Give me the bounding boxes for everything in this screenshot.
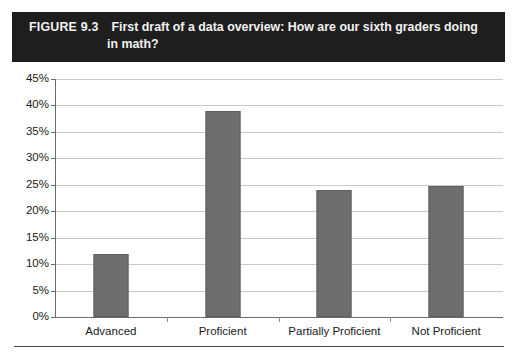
bar-slot [390,79,502,317]
figure-banner-line-1: FIGURE 9.3First draft of a data overview… [29,19,495,36]
bar[interactable] [317,190,352,317]
x-axis-category-label: Not Proficient [390,324,502,338]
y-axis-tick-label: 30% [5,152,49,164]
bar-slot [55,79,167,317]
figure-number-label: FIGURE 9.3 [29,20,98,34]
y-axis-tick-label: 10% [5,258,49,270]
y-axis-tick-label: 5% [5,285,49,297]
bar-chart: 0%5%10%15%20%25%30%35%40%45% AdvancedPro… [0,62,516,346]
x-axis-tick-marks [55,317,502,322]
x-axis-category-label: Proficient [167,324,279,338]
x-axis-tick-mark [167,317,168,322]
y-axis-tick-label: 0% [5,311,49,323]
y-axis-tick-label: 35% [5,126,49,138]
bar[interactable] [93,254,128,317]
y-axis-tick-label: 20% [5,205,49,217]
y-axis-tick-label: 45% [5,73,49,85]
figure-banner-line-2: in math? [29,36,495,53]
bar-series [55,79,502,317]
figure-banner: FIGURE 9.3First draft of a data overview… [12,12,505,62]
x-axis-category-label: Partially Proficient [279,324,391,338]
bar[interactable] [429,186,464,317]
x-axis-category-label: Advanced [55,324,167,338]
bottom-divider [14,346,504,347]
x-axis-labels: AdvancedProficientPartially ProficientNo… [55,324,502,344]
y-axis-tick-label: 25% [5,179,49,191]
x-axis-tick-mark [279,317,280,322]
bar[interactable] [205,111,240,317]
figure-title-line-2: in math? [107,36,495,53]
bar-slot [279,79,391,317]
bar-slot [167,79,279,317]
y-axis-tick-label: 40% [5,99,49,111]
figure-title-line-1: First draft of a data overview: How are … [111,20,477,34]
x-axis-tick-mark [390,317,391,322]
y-axis-labels: 0%5%10%15%20%25%30%35%40%45% [0,79,49,317]
y-axis-tick-label: 15% [5,232,49,244]
